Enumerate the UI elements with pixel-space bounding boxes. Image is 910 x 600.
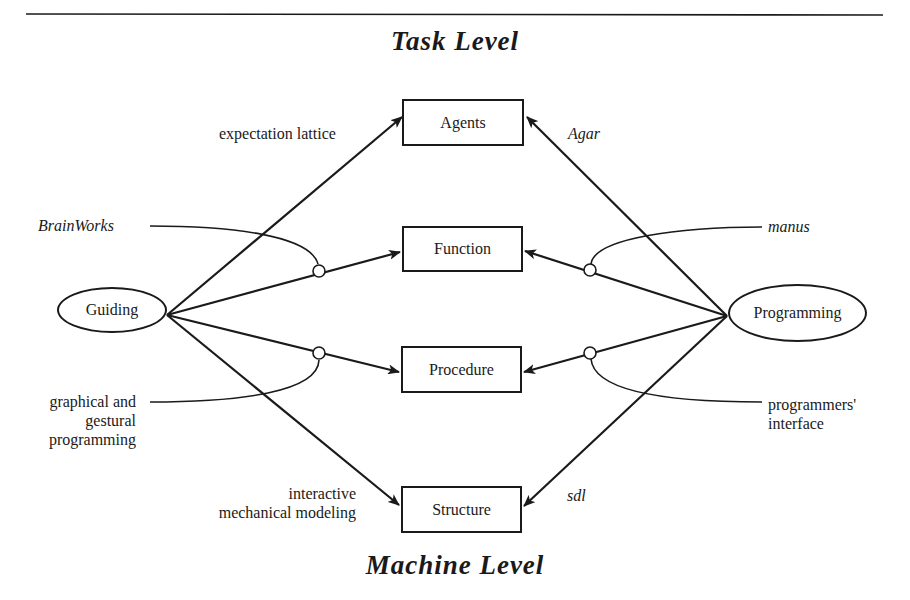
node-function[interactable]: Function (402, 226, 523, 272)
node-structure[interactable]: Structure (401, 486, 522, 533)
leader-manus (591, 227, 762, 264)
node-procedure[interactable]: Procedure (401, 346, 522, 393)
junction-programming-procedure (584, 347, 596, 359)
label-programmers-interface: programmers' interface (768, 395, 856, 433)
leader-graphical (150, 360, 319, 402)
label-interactive-modeling: interactive mechanical modeling (200, 484, 356, 522)
label-interactive-line1: interactive (200, 484, 356, 503)
machine-level-heading: Machine Level (0, 550, 910, 581)
junction-programming-function (584, 264, 596, 276)
label-programmers-line2: interface (768, 414, 856, 433)
edge-programming-function (525, 251, 727, 316)
edge-programming-agents (527, 117, 727, 316)
junction-guiding-procedure (313, 347, 325, 359)
node-procedure-label: Procedure (429, 361, 494, 379)
label-interactive-line2: mechanical modeling (200, 503, 356, 522)
top-rule (26, 14, 883, 15)
node-guiding-label: Guiding (86, 301, 138, 319)
label-manus: manus (768, 217, 810, 236)
label-agar: Agar (568, 124, 600, 143)
node-function-label: Function (434, 240, 491, 258)
junction-guiding-function (313, 265, 325, 277)
label-graphical-line3: programming (10, 430, 136, 449)
label-expectation-lattice: expectation lattice (219, 124, 336, 143)
label-graphical-line1: graphical and (10, 392, 136, 411)
node-agents[interactable]: Agents (402, 99, 524, 146)
node-programming[interactable]: Programming (728, 284, 867, 342)
task-level-heading: Task Level (0, 26, 910, 57)
label-graphical-gestural: graphical and gestural programming (10, 392, 136, 449)
node-guiding[interactable]: Guiding (57, 287, 167, 333)
label-brainworks: BrainWorks (38, 216, 114, 235)
leader-programmers (591, 359, 762, 402)
label-graphical-line2: gestural (10, 411, 136, 430)
label-sdl: sdl (567, 486, 586, 505)
node-agents-label: Agents (440, 114, 485, 132)
label-programmers-line1: programmers' (768, 395, 856, 414)
node-structure-label: Structure (432, 501, 491, 519)
edge-guiding-function (167, 252, 400, 315)
edge-guiding-agents (167, 117, 402, 315)
node-programming-label: Programming (754, 304, 842, 322)
